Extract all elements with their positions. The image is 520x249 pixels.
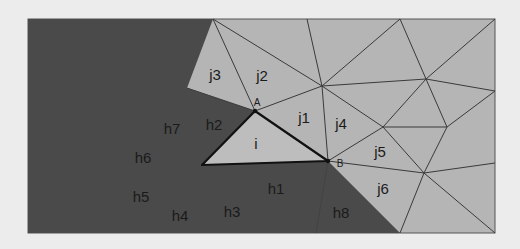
vertex-b-label: B: [337, 159, 344, 169]
region-j1-label: j1: [298, 110, 310, 125]
region-h4-label: h4: [172, 208, 189, 223]
vertex-a-marker: [253, 109, 257, 113]
diagram-canvas: [0, 0, 520, 249]
region-j4-label: j4: [335, 116, 347, 131]
region-h3-label: h3: [224, 204, 241, 219]
region-h5-label: h5: [133, 189, 150, 204]
region-h6-label: h6: [135, 150, 152, 165]
region-j3-label: j3: [209, 67, 221, 82]
vertex-a-label: A: [254, 98, 261, 108]
triangulation-diagram: A B i j1 j2 j3 j4 j5 j6 h1 h2 h3 h4 h5 h…: [0, 0, 520, 249]
region-h2-label: h2: [206, 117, 223, 132]
region-j5-label: j5: [374, 144, 386, 159]
region-h7-label: h7: [164, 121, 181, 136]
triangle-i-label: i: [254, 136, 257, 151]
region-h8-label: h8: [333, 205, 350, 220]
region-j2-label: j2: [256, 68, 268, 83]
region-j6-label: j6: [377, 181, 389, 196]
region-h1-label: h1: [268, 181, 285, 196]
vertex-b-marker: [326, 159, 330, 163]
